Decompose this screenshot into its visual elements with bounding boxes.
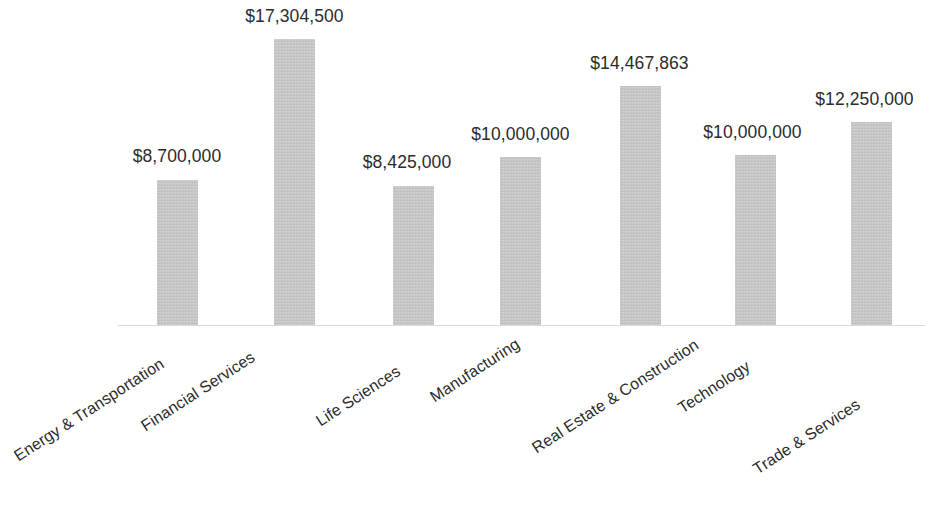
bar-technology (735, 155, 776, 325)
bar-trade-services (851, 122, 892, 325)
value-label-trade-services: $12,250,000 (800, 89, 929, 109)
value-label-energy-transportation: $8,700,000 (118, 146, 236, 166)
x-axis-line (118, 325, 925, 326)
value-label-manufacturing: $10,000,000 (456, 124, 585, 144)
category-label-real-estate-construction: Real Estate & Construction (529, 336, 702, 457)
category-label-energy-transportation: Energy & Transportation (11, 355, 167, 465)
category-label-technology: Technology (675, 357, 754, 417)
value-label-life-sciences: $8,425,000 (348, 152, 466, 172)
bar-energy-transportation (157, 180, 198, 325)
category-label-life-sciences: Life Sciences (313, 362, 404, 430)
bar-financial-services (274, 39, 315, 325)
bar-chart: $8,700,000 $17,304,500 $8,425,000 $10,00… (0, 0, 941, 527)
value-label-real-estate-construction: $14,467,863 (570, 53, 709, 73)
value-label-financial-services: $17,304,500 (225, 6, 364, 26)
plot-area: $8,700,000 $17,304,500 $8,425,000 $10,00… (0, 0, 941, 527)
bar-real-estate-construction (620, 86, 661, 325)
category-label-trade-services: Trade & Services (750, 396, 864, 478)
category-label-manufacturing: Manufacturing (427, 335, 523, 406)
bar-life-sciences (393, 186, 434, 325)
value-label-technology: $10,000,000 (688, 122, 817, 142)
bar-manufacturing (500, 157, 541, 325)
